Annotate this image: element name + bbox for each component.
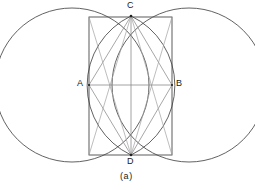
lens-arc-right [131, 16, 175, 155]
vertex-point-b [171, 84, 173, 86]
geometry-figure: A B C D (a) [0, 0, 255, 190]
figure-caption: (a) [120, 172, 133, 181]
vertex-label-d: D [127, 157, 134, 166]
bounding-rectangle [89, 17, 172, 155]
rhombus-edge-bd [131, 85, 172, 155]
vertex-point-c [130, 15, 133, 18]
vertex-label-a: A [77, 79, 83, 88]
vertex-label-c: C [127, 1, 134, 10]
rhombus-edge-cb [131, 16, 172, 85]
vertex-point-a [88, 84, 90, 86]
vertex-label-b: B [176, 79, 182, 88]
